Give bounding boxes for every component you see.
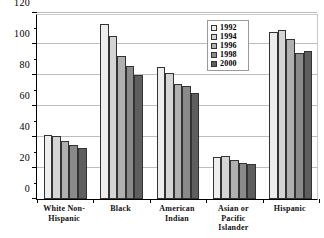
legend-item: 1992 bbox=[211, 23, 245, 32]
bar bbox=[78, 148, 87, 199]
bar bbox=[69, 145, 78, 199]
bar bbox=[191, 93, 200, 199]
legend-item: 1996 bbox=[211, 41, 245, 50]
y-axis-minor-tick bbox=[34, 183, 37, 184]
category-label: White Non-Hispanic bbox=[36, 204, 92, 223]
legend-label: 1994 bbox=[220, 32, 237, 41]
legend-item: 1994 bbox=[211, 32, 245, 41]
bar-chart: 020406080100120 White Non-HispanicBlackA… bbox=[0, 0, 324, 238]
bar bbox=[109, 36, 118, 199]
bar bbox=[182, 86, 191, 199]
category-label-line: Pacific bbox=[205, 214, 261, 224]
gridline bbox=[37, 12, 317, 13]
x-axis-tick bbox=[93, 199, 94, 203]
bar bbox=[52, 136, 61, 199]
plot-area: 020406080100120 bbox=[36, 14, 318, 200]
bar bbox=[134, 75, 143, 199]
bar bbox=[230, 160, 239, 199]
y-axis-minor-tick bbox=[34, 28, 37, 29]
category-label: Asian orPacificIslander bbox=[205, 204, 261, 233]
legend-label: 1998 bbox=[220, 50, 237, 59]
bar bbox=[157, 67, 166, 199]
y-axis-label: 120 bbox=[14, 0, 30, 8]
y-axis-label: 0 bbox=[25, 184, 30, 194]
x-axis-tick bbox=[37, 199, 38, 203]
y-axis-tick bbox=[32, 105, 37, 106]
category-label-line: White Non- bbox=[36, 204, 92, 214]
category-label: Black bbox=[92, 204, 148, 214]
bar bbox=[304, 51, 313, 199]
bar bbox=[278, 30, 287, 199]
legend: 19921994199619982000 bbox=[207, 20, 249, 71]
category-label-line: Hispanic bbox=[36, 214, 92, 224]
y-axis-minor-tick bbox=[34, 152, 37, 153]
bar-group bbox=[44, 15, 87, 199]
y-axis-label: 40 bbox=[19, 122, 30, 132]
y-axis-tick bbox=[32, 167, 37, 168]
y-axis-label: 20 bbox=[19, 153, 30, 163]
y-axis-label: 60 bbox=[19, 91, 30, 101]
bar-group bbox=[269, 15, 312, 199]
category-label-line: Asian or bbox=[205, 204, 261, 214]
y-axis-minor-tick bbox=[34, 90, 37, 91]
legend-swatch-icon bbox=[211, 43, 217, 49]
category-label-line: Hispanic bbox=[262, 204, 318, 214]
legend-swatch-icon bbox=[211, 25, 217, 31]
legend-swatch-icon bbox=[211, 52, 217, 58]
x-axis-tick bbox=[319, 199, 320, 203]
x-axis-tick bbox=[263, 199, 264, 203]
legend-label: 1992 bbox=[220, 23, 237, 32]
x-axis-tick bbox=[206, 199, 207, 203]
bar-group bbox=[100, 15, 143, 199]
bar bbox=[165, 73, 174, 199]
bar bbox=[295, 53, 304, 199]
bar-group bbox=[157, 15, 200, 199]
bar bbox=[174, 84, 183, 199]
y-axis-tick bbox=[32, 43, 37, 44]
x-axis-tick bbox=[150, 199, 151, 203]
y-axis-label: 80 bbox=[19, 60, 30, 70]
bar bbox=[126, 66, 135, 199]
bar bbox=[286, 39, 295, 199]
bar bbox=[247, 164, 256, 199]
category-label-line: Black bbox=[92, 204, 148, 214]
category-label-line: Islander bbox=[205, 223, 261, 233]
bar bbox=[117, 56, 126, 199]
bar bbox=[239, 163, 248, 199]
y-axis-minor-tick bbox=[34, 121, 37, 122]
y-axis-tick bbox=[32, 136, 37, 137]
legend-label: 1996 bbox=[220, 41, 237, 50]
y-axis-label: 100 bbox=[14, 29, 30, 39]
bar bbox=[213, 157, 222, 199]
category-label-line: Indian bbox=[149, 214, 205, 224]
bar bbox=[221, 156, 230, 199]
legend-item: 1998 bbox=[211, 50, 245, 59]
bar bbox=[61, 141, 70, 199]
legend-item: 2000 bbox=[211, 59, 245, 68]
category-label-line: American bbox=[149, 204, 205, 214]
legend-swatch-icon bbox=[211, 61, 217, 67]
y-axis-tick bbox=[32, 12, 37, 13]
category-label: AmericanIndian bbox=[149, 204, 205, 223]
bar bbox=[44, 135, 53, 199]
bar bbox=[100, 24, 109, 199]
category-label: Hispanic bbox=[262, 204, 318, 214]
bar bbox=[269, 32, 278, 199]
legend-label: 2000 bbox=[220, 59, 237, 68]
y-axis-tick bbox=[32, 74, 37, 75]
y-axis-minor-tick bbox=[34, 59, 37, 60]
legend-swatch-icon bbox=[211, 34, 217, 40]
